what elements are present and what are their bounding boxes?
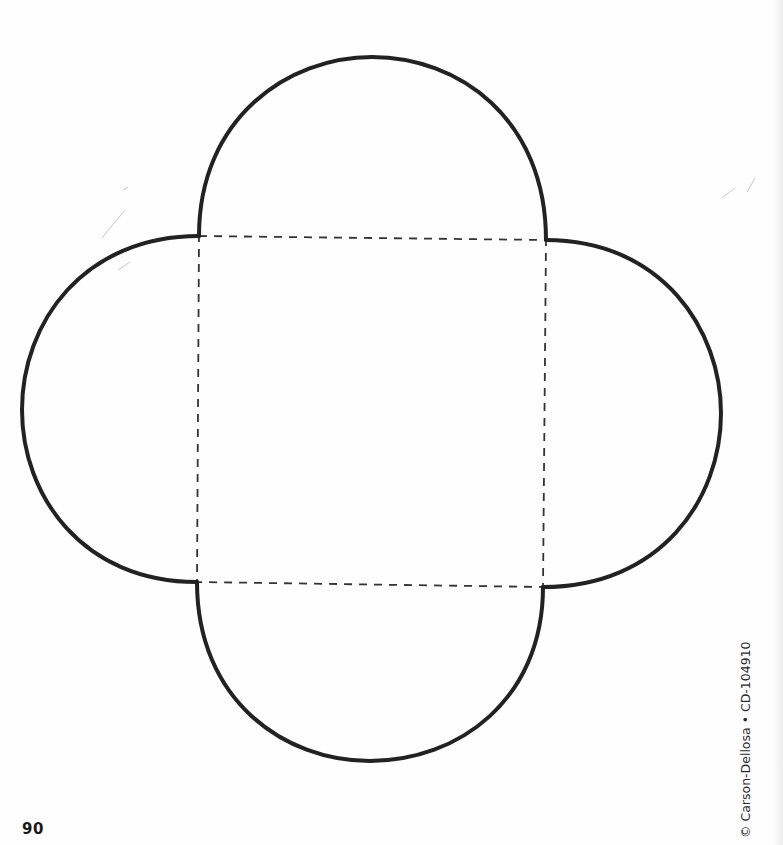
flap-right (543, 240, 721, 587)
flap-top (199, 57, 546, 240)
page-number: 90 (22, 820, 44, 838)
envelope-template (0, 0, 783, 845)
copyright-notice: © Carson-Dellosa • CD-104910 (738, 641, 753, 838)
fold-line-square (197, 236, 546, 587)
worksheet-page: 90 © Carson-Dellosa • CD-104910 (0, 0, 783, 845)
flap-bottom (197, 582, 543, 761)
flap-left (22, 236, 199, 582)
